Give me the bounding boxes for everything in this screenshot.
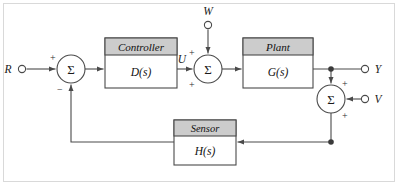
- terminal-r-node: [18, 65, 25, 72]
- edge-sum-noise-to-sensor: [238, 113, 331, 142]
- sum-noise-sign-top: +: [342, 78, 348, 89]
- terminal-w: W: [203, 5, 214, 29]
- terminal-y: Y: [361, 63, 382, 75]
- terminal-v-node: [361, 95, 368, 102]
- plant-title: Plant: [265, 41, 291, 53]
- terminal-r-label: R: [3, 63, 11, 75]
- block-controller: Controller D(s): [105, 38, 177, 88]
- junction-dot-output-tap: [328, 66, 334, 72]
- terminal-y-label: Y: [375, 63, 383, 75]
- sum-disturbance-sign-bottom: +: [189, 79, 195, 90]
- terminal-w-node: [204, 21, 211, 28]
- summing-junction-disturbance: Σ + +: [189, 47, 222, 90]
- sum-disturbance-symbol: Σ: [204, 62, 212, 77]
- terminal-v-label: V: [374, 93, 383, 105]
- sum-error-symbol: Σ: [67, 62, 75, 77]
- diagram-canvas: Controller D(s) Plant G(s) Sensor H(s) Σ…: [0, 0, 398, 185]
- summing-junction-error: Σ + −: [50, 52, 85, 95]
- controller-title: Controller: [118, 41, 165, 53]
- plant-transfer-function: G(s): [268, 66, 289, 79]
- block-plant: Plant G(s): [243, 38, 313, 88]
- block-diagram-figure: Controller D(s) Plant G(s) Sensor H(s) Σ…: [0, 0, 398, 185]
- edge-sensor-to-sum-error: [71, 85, 174, 142]
- sensor-transfer-function: H(s): [194, 145, 216, 158]
- summing-junction-noise: Σ + +: [317, 78, 348, 121]
- terminal-r: R: [3, 63, 25, 75]
- signal-label-u: U: [178, 53, 187, 65]
- sum-disturbance-sign-top: +: [189, 47, 195, 58]
- junction-dot-feedback-tap: [328, 139, 334, 145]
- sum-noise-sign-bottom: +: [342, 110, 348, 121]
- sum-noise-symbol: Σ: [327, 92, 335, 107]
- sensor-title: Sensor: [191, 123, 220, 134]
- terminal-v: V: [361, 93, 383, 105]
- terminal-y-node: [361, 65, 368, 72]
- sum-error-sign-negative: −: [57, 84, 63, 95]
- controller-transfer-function: D(s): [130, 66, 152, 79]
- block-sensor: Sensor H(s): [174, 120, 236, 165]
- sum-error-sign-positive: +: [50, 52, 56, 63]
- terminal-w-label: W: [203, 5, 214, 17]
